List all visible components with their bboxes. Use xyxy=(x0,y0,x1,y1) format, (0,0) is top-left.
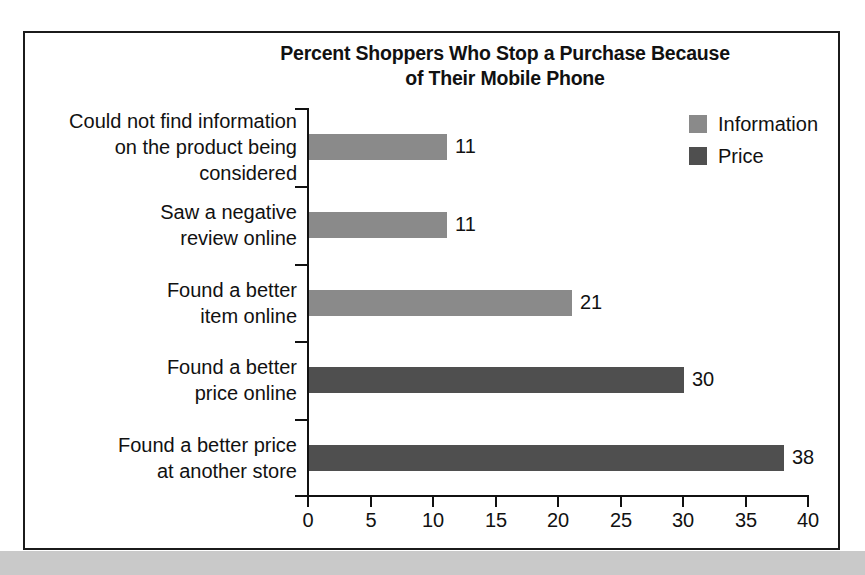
x-axis-tick xyxy=(682,497,684,507)
x-axis-tick-label: 30 xyxy=(653,509,713,532)
y-axis-tick xyxy=(295,186,307,188)
category-label: Found a better price at another store xyxy=(32,432,297,484)
x-axis-tick xyxy=(495,497,497,507)
x-axis-tick-label: 5 xyxy=(341,509,401,532)
x-axis-tick xyxy=(432,497,434,507)
y-axis-tick xyxy=(295,495,307,497)
x-axis-tick xyxy=(620,497,622,507)
category-label: Saw a negative review online xyxy=(32,199,297,251)
bar-value-label: 30 xyxy=(692,368,714,391)
chart-page: Percent Shoppers Who Stop a Purchase Bec… xyxy=(0,0,865,575)
x-axis-tick-label: 25 xyxy=(591,509,651,532)
x-axis-tick xyxy=(557,497,559,507)
x-axis-tick-label: 40 xyxy=(778,509,838,532)
y-axis-tick xyxy=(295,419,307,421)
chart-title-line-2: of Their Mobile Phone xyxy=(185,66,825,91)
x-axis-tick-label: 15 xyxy=(466,509,526,532)
x-axis-tick-label: 0 xyxy=(278,509,338,532)
x-axis-tick xyxy=(807,497,809,507)
x-axis-tick xyxy=(745,497,747,507)
category-label: Found a better item online xyxy=(32,277,297,329)
category-label: Could not find information on the produc… xyxy=(32,108,297,186)
bar xyxy=(309,212,447,238)
bar xyxy=(309,290,572,316)
x-axis-tick-label: 35 xyxy=(716,509,776,532)
bar-value-label: 11 xyxy=(455,135,476,158)
chart-title: Percent Shoppers Who Stop a Purchase Bec… xyxy=(185,41,825,91)
bar xyxy=(309,445,784,471)
figure-frame: Percent Shoppers Who Stop a Purchase Bec… xyxy=(23,31,840,550)
x-axis-tick xyxy=(307,497,309,507)
bar xyxy=(309,367,684,393)
y-axis-tick xyxy=(295,108,307,110)
bar-value-label: 38 xyxy=(792,446,814,469)
plot-area: 0510152025303540 1111213038 xyxy=(307,108,807,497)
scan-artifact-band xyxy=(0,551,865,575)
x-axis-tick-label: 20 xyxy=(528,509,588,532)
y-axis-tick xyxy=(295,264,307,266)
x-axis-tick-label: 10 xyxy=(403,509,463,532)
bar-value-label: 21 xyxy=(580,291,602,314)
bar xyxy=(309,134,447,160)
x-axis-tick xyxy=(370,497,372,507)
bar-value-label: 11 xyxy=(455,213,476,236)
chart-title-line-1: Percent Shoppers Who Stop a Purchase Bec… xyxy=(185,41,825,66)
y-axis-tick xyxy=(295,341,307,343)
category-axis-labels: Could not find information on the produc… xyxy=(25,108,297,497)
category-label: Found a better price online xyxy=(32,354,297,406)
